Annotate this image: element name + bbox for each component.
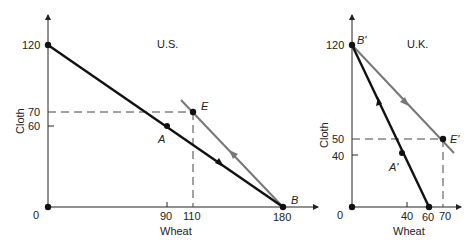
us-xtick-180: 180 bbox=[273, 211, 291, 223]
us-title: U.S. bbox=[157, 38, 178, 50]
uk-label-E: E' bbox=[450, 133, 460, 145]
uk-x-axis-label: Wheat bbox=[393, 225, 425, 237]
uk-xtick-70: 70 bbox=[439, 210, 451, 222]
uk-y-axis-label: Cloth bbox=[318, 122, 330, 148]
us-ppf-arrow-icon bbox=[215, 158, 224, 167]
us-xtick-110: 110 bbox=[183, 210, 201, 222]
uk-point-60 bbox=[426, 204, 432, 210]
us-point-B bbox=[280, 204, 286, 210]
uk-point-B bbox=[349, 42, 355, 48]
us-xtick-90: 90 bbox=[160, 210, 172, 222]
us-ytick-60: 60 bbox=[28, 120, 40, 132]
us-label-B: B bbox=[291, 194, 298, 206]
uk-point-E bbox=[440, 136, 446, 142]
uk-title: U.K. bbox=[407, 38, 428, 50]
uk-xtick-40: 40 bbox=[401, 210, 413, 222]
uk-panel: U.K. 120 50 40 0 40 60 70 Wheat Cloth B'… bbox=[318, 15, 461, 237]
uk-xtick-60: 60 bbox=[422, 211, 434, 223]
us-panel: U.S. 120 70 60 0 90 110 180 Wheat Cloth … bbox=[14, 15, 318, 237]
uk-origin-label: 0 bbox=[337, 209, 343, 221]
us-label-E: E bbox=[201, 100, 209, 112]
uk-label-B: B' bbox=[357, 34, 367, 46]
us-point-A bbox=[164, 123, 170, 129]
uk-point-A bbox=[399, 150, 405, 156]
us-origin-label: 0 bbox=[33, 209, 39, 221]
uk-ytick-120: 120 bbox=[326, 39, 344, 51]
us-label-A: A bbox=[157, 133, 165, 145]
uk-ytick-40: 40 bbox=[332, 150, 344, 162]
us-point-origin bbox=[45, 204, 51, 210]
uk-ytick-50: 50 bbox=[332, 133, 344, 145]
trade-diagram: U.S. 120 70 60 0 90 110 180 Wheat Cloth … bbox=[0, 0, 475, 248]
us-point-120 bbox=[45, 42, 51, 48]
uk-label-A: A' bbox=[388, 161, 399, 173]
us-point-E bbox=[190, 109, 196, 115]
us-x-axis-label: Wheat bbox=[160, 225, 192, 237]
us-y-axis-label: Cloth bbox=[14, 108, 26, 134]
us-ytick-120: 120 bbox=[22, 39, 40, 51]
uk-point-origin bbox=[349, 204, 355, 210]
us-ytick-70: 70 bbox=[28, 106, 40, 118]
uk-ppf-line bbox=[352, 45, 429, 207]
